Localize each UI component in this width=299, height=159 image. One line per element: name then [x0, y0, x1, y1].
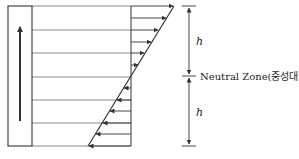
stress-distribution-diagram: h h Neutral Zone(중성대) — [0, 0, 299, 159]
lower-stress-arrows — [89, 88, 131, 146]
upper-dimension-label: h — [196, 35, 203, 48]
horizontal-lines — [32, 6, 131, 146]
dimension-lines — [182, 6, 196, 146]
lower-dimension-label: h — [196, 106, 203, 119]
neutral-zone-label: Neutral Zone(중성대) — [200, 71, 299, 82]
upper-stress-arrows — [131, 6, 173, 65]
